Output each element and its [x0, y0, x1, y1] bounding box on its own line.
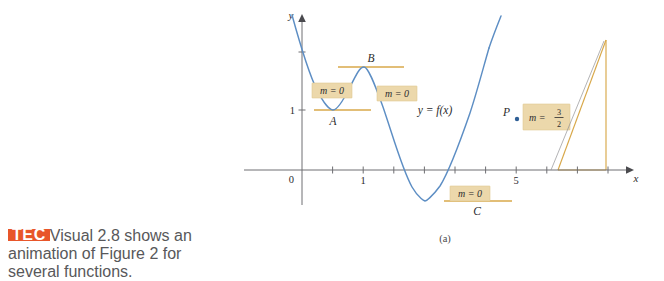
- x-tick-label-5: 5: [514, 175, 519, 186]
- y-axis-arrowhead: [298, 14, 306, 22]
- point-P-marker: [515, 117, 519, 121]
- point-label-B: B: [367, 52, 374, 64]
- function-label: y = f(x): [417, 104, 453, 117]
- point-label-C: C: [473, 205, 481, 217]
- x-tick-label-1: 1: [361, 175, 366, 186]
- point-label-A: A: [328, 115, 337, 127]
- y-tick-label-1: 1: [290, 105, 295, 116]
- slope-callout-C-text: m = 0: [458, 188, 482, 199]
- slope-callout-A: m = 0: [312, 83, 352, 98]
- subfigure-label-text: (a): [439, 233, 451, 244]
- slope-callout-C: m = 0: [450, 186, 490, 201]
- x-axis-label: x: [633, 172, 639, 184]
- slope-callout-P-prefix: m =: [529, 112, 545, 123]
- point-label-P: P: [502, 106, 510, 118]
- subfigure-label: (a): [0, 233, 664, 244]
- slope-callout-P-denominator: 2: [557, 120, 561, 129]
- slope-callout-B-text: m = 0: [385, 88, 409, 99]
- slope-callout-P: m = 3 2: [523, 104, 570, 130]
- function-label-text: y = f(x): [417, 104, 453, 117]
- origin-label: 0: [289, 174, 294, 185]
- function-curve: [292, 15, 489, 201]
- function-curve-upper-tail: [489, 16, 501, 48]
- slope-callout-B: m = 0: [377, 86, 417, 101]
- slope-callout-P-numerator: 3: [557, 108, 561, 117]
- slope-callout-A-text: m = 0: [320, 85, 344, 96]
